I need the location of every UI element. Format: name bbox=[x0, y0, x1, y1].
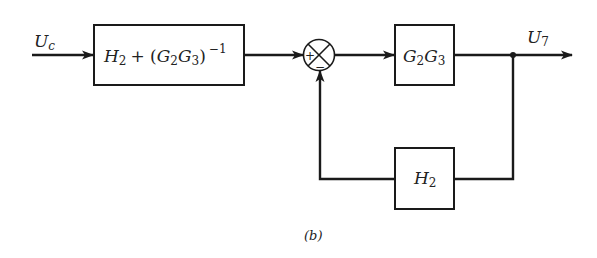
output-label: U7 bbox=[527, 27, 549, 49]
prefilter-block: H2+ (G2G3)−1 bbox=[94, 25, 244, 85]
feedback-line-to-sum bbox=[320, 71, 395, 179]
forward-block: G2G3 bbox=[395, 25, 454, 85]
block-diagram: Uc H2+ (G2G3)−1 + − G2G3 U7 H2 bbox=[0, 0, 597, 258]
input-label-subscript: c bbox=[48, 39, 55, 53]
plus-sign: + bbox=[305, 49, 315, 63]
svg-text:Uc: Uc bbox=[34, 31, 55, 53]
input-signal: Uc bbox=[32, 31, 93, 55]
feedback-block: H2 bbox=[395, 148, 454, 209]
feedback-line-to-block bbox=[454, 55, 513, 179]
input-label: U bbox=[34, 31, 49, 51]
figure-caption: (b) bbox=[304, 228, 322, 243]
summing-junction: + − bbox=[304, 40, 335, 75]
